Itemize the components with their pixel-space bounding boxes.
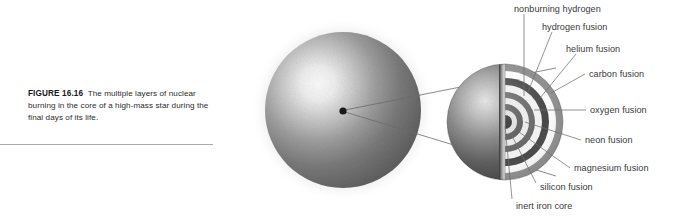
star-core-dot	[339, 107, 346, 114]
callout-label-helium-fusion: helium fusion	[566, 44, 620, 54]
cut-rim-face	[499, 64, 505, 180]
callout-label-magnesium-fusion: magnesium fusion	[574, 163, 649, 173]
callout-line-helium-fusion	[540, 54, 576, 98]
callout-label-inert-iron-core: inert iron core	[516, 201, 572, 211]
callout-label-carbon-fusion: carbon fusion	[589, 69, 644, 79]
core-cutaway-illustration	[447, 64, 563, 180]
callout-label-nonburning-hydrogen: nonburning hydrogen	[514, 4, 601, 14]
callout-label-hydrogen-fusion: hydrogen fusion	[542, 22, 607, 32]
callout-line-carbon-fusion	[551, 74, 585, 93]
callout-label-oxygen-fusion: oxygen fusion	[590, 105, 647, 115]
callout-label-neon-fusion: neon fusion	[585, 135, 633, 145]
callout-label-silicon-fusion: silicon fusion	[540, 182, 593, 192]
